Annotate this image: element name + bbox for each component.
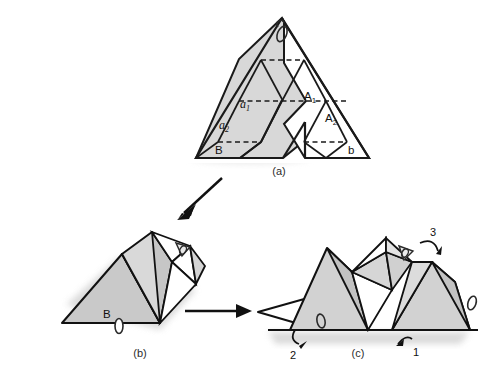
panel-b-base-clip-icon [115, 319, 123, 334]
label-b-text: b [348, 144, 354, 156]
caption-b: (b) [133, 347, 146, 359]
panel-a-clean [180, 8, 390, 163]
callout-1-text: 1 [413, 346, 419, 358]
panel-c-shadow [268, 332, 470, 344]
panel-b-base-clip [115, 319, 123, 334]
folding-diagram: a1 a2 B A1 A2 b (a) [0, 0, 498, 375]
callout-3-text: 3 [430, 226, 436, 238]
panel-a-figure: a1 a2 B A1 A2 b (a) [180, 8, 390, 177]
diagram-final: a1 a2 B A1 A2 b (a) [0, 0, 498, 375]
panel-b-label-B: B [103, 308, 111, 320]
figure-root: a1 a2 B A1 A2 b (a) [0, 0, 498, 375]
caption-a: (a) [272, 165, 285, 177]
label-B-text: B [215, 144, 223, 156]
caption-c: (c) [352, 347, 365, 359]
callout-2-text: 2 [290, 349, 296, 361]
